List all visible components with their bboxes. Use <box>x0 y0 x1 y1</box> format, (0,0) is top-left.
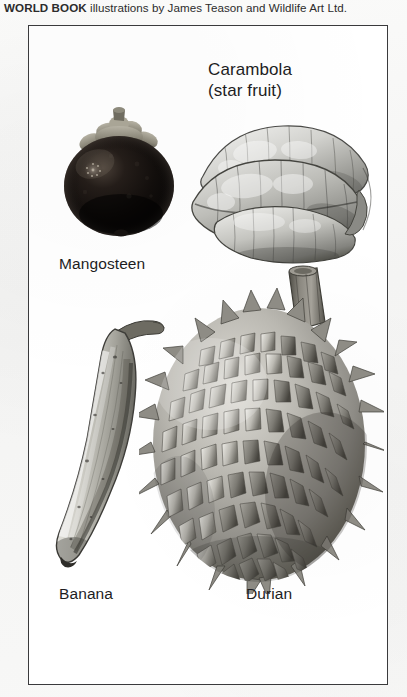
label-banana: Banana <box>59 584 113 603</box>
credit-brand: WORLD BOOK <box>4 1 87 14</box>
credit-text: illustrations by James Teason and Wildli… <box>87 1 347 14</box>
label-carambola-line2: (star fruit) <box>208 81 282 100</box>
figure-durian <box>139 264 384 594</box>
mangosteen-fruit-illustration <box>51 104 201 254</box>
figure-mangosteen <box>51 104 201 254</box>
illustration-plate: Carambola(star fruit) Mangosteen Banana … <box>28 25 388 685</box>
durian-body <box>139 288 384 594</box>
banana-body <box>51 329 136 569</box>
carambola-star-fruit-illustration <box>187 98 382 273</box>
label-carambola-line1: Carambola <box>208 60 292 79</box>
durian-fruit-illustration <box>139 264 384 594</box>
credit-line: WORLD BOOK illustrations by James Teason… <box>4 1 404 15</box>
illustration-page: WORLD BOOK illustrations by James Teason… <box>0 0 407 697</box>
label-carambola: Carambola(star fruit) <box>208 59 292 101</box>
mangosteen-body <box>64 136 174 237</box>
mangosteen-star-rosette <box>83 160 103 180</box>
label-durian: Durian <box>246 584 292 603</box>
figure-carambola <box>187 98 382 273</box>
label-mangosteen: Mangosteen <box>59 254 145 273</box>
